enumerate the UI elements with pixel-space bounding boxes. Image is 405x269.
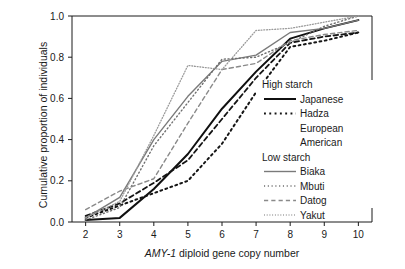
y-axis-ticks: 0.00.20.40.60.81.0	[50, 11, 72, 228]
figure-container: 0.00.20.40.60.81.0 2345678910 High starc…	[0, 0, 405, 269]
x-axis-label-rest: diploid gene copy number	[176, 247, 299, 259]
legend-label-japanese: Japanese	[300, 94, 344, 105]
legend-group-header: Low starch	[262, 152, 310, 163]
x-tick-label: 9	[321, 229, 327, 240]
x-axis-ticks: 2345678910	[83, 222, 365, 240]
y-tick-label: 0.2	[50, 175, 64, 186]
x-tick-label: 2	[83, 229, 89, 240]
x-tick-label: 10	[353, 229, 365, 240]
legend-label-datog: Datog	[300, 195, 327, 206]
x-tick-label: 3	[117, 229, 123, 240]
chart-canvas: 0.00.20.40.60.81.0 2345678910 High starc…	[0, 0, 405, 269]
x-axis-label-italic: AMY-1	[145, 247, 176, 259]
legend-label-biaka: Biaka	[300, 166, 325, 177]
x-tick-label: 6	[219, 229, 225, 240]
y-axis-label: Cumulative proportion of individuals	[37, 20, 49, 230]
legend-label-continuation: American	[300, 137, 342, 148]
legend-label-continuation: European	[300, 123, 343, 134]
y-tick-label: 0.4	[50, 134, 64, 145]
x-axis-label: AMY-1 diploid gene copy number	[72, 247, 372, 259]
x-tick-label: 5	[185, 229, 191, 240]
legend-label-mbuti: Mbuti	[300, 181, 324, 192]
x-tick-label: 7	[253, 229, 259, 240]
y-tick-label: 0.0	[50, 217, 64, 228]
legend-group-header: High starch	[262, 79, 313, 90]
y-tick-label: 0.8	[50, 52, 64, 63]
chart-legend: High starchJapaneseHadzaEuropeanAmerican…	[256, 79, 378, 221]
x-tick-label: 8	[287, 229, 293, 240]
y-tick-label: 1.0	[50, 11, 64, 22]
x-tick-label: 4	[151, 229, 157, 240]
legend-label-hadza: Hadza	[300, 108, 329, 119]
y-tick-label: 0.6	[50, 93, 64, 104]
legend-label-yakut: Yakut	[300, 210, 325, 221]
